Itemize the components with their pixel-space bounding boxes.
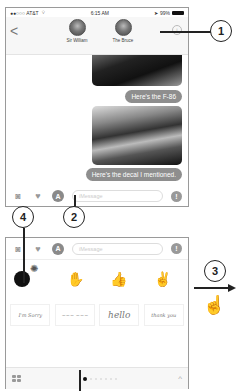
back-button[interactable]: <: [10, 23, 18, 39]
input-bar: ◙ ♥ A iMessage !: [6, 238, 188, 260]
digital-touch-icon[interactable]: ♥: [32, 244, 44, 254]
text-sticker[interactable]: hello: [99, 304, 139, 326]
app-store-button[interactable]: A: [52, 190, 64, 202]
avatar: [69, 19, 86, 36]
contact-sir-william[interactable]: Sir William: [60, 19, 94, 43]
avatar: [115, 19, 132, 36]
chevron-up-icon[interactable]: ^: [178, 374, 182, 383]
status-bar: ●●○○○ AT&T ⌔ 6:15 AM ➤ 99%: [6, 8, 188, 17]
callout-line: [79, 370, 81, 391]
callout-4: 4: [12, 206, 34, 228]
input-bar: ◙ ♥ A iMessage !: [6, 185, 188, 207]
spark-icon: ✺: [30, 263, 38, 274]
contact-the-bruce[interactable]: The Bruce: [106, 19, 140, 43]
bomb-sticker[interactable]: ✺: [14, 271, 50, 287]
peace-sticker[interactable]: ✌: [144, 271, 180, 287]
text-sticker[interactable]: I'm Sorry: [10, 304, 50, 326]
time-label: 6:15 AM: [91, 10, 109, 16]
app-grid-icon[interactable]: [12, 375, 21, 382]
sticker-row: ✺ ✋ 👍 ✌: [6, 260, 188, 298]
hand-sticker[interactable]: ✋: [57, 271, 93, 287]
callout-3: 3: [204, 260, 226, 282]
callout-2: 2: [63, 206, 85, 228]
conversation-header: < Sir William The Bruce i: [6, 17, 188, 55]
text-sticker[interactable]: thank you: [144, 304, 184, 326]
message-bubble: Here's the F-86: [125, 90, 182, 103]
camera-icon[interactable]: ◙: [12, 191, 24, 201]
callout-1: 1: [210, 20, 232, 42]
app-store-button[interactable]: A: [52, 243, 64, 255]
thumbs-sticker[interactable]: 👍: [101, 271, 137, 287]
drawer-bar: ^: [6, 367, 188, 389]
app-drawer-screen: ◙ ♥ A iMessage ! ✺ ✋ 👍 ✌ I'm Sorry ~~~ ~…: [5, 237, 189, 389]
message-photo[interactable]: [92, 55, 182, 86]
mic-icon[interactable]: !: [171, 191, 182, 202]
message-bubble: Here's the decal I mentioned.: [86, 168, 182, 181]
bomb-icon: ✺: [14, 271, 30, 287]
conversation-screen: ●●○○○ AT&T ⌔ 6:15 AM ➤ 99% < Sir William…: [5, 7, 189, 207]
text-sticker-row: I'm Sorry ~~~ ~~~ hello thank you: [6, 298, 188, 332]
arrow-head-icon: [228, 284, 236, 292]
wifi-icon: ⌔: [41, 9, 46, 16]
swipe-hand-icon: ☝: [203, 294, 225, 316]
contact-list: Sir William The Bruce: [60, 19, 140, 43]
battery-percent: 99%: [160, 10, 170, 16]
digital-touch-icon[interactable]: ♥: [32, 191, 44, 201]
battery-icon: [172, 11, 184, 15]
contact-name: The Bruce: [113, 38, 134, 43]
message-input[interactable]: iMessage: [72, 190, 163, 202]
text-sticker[interactable]: ~~~ ~~~: [55, 304, 95, 326]
callout-line: [160, 31, 212, 33]
mic-icon[interactable]: !: [171, 243, 182, 254]
info-icon[interactable]: i: [172, 25, 182, 35]
message-input[interactable]: iMessage: [72, 243, 163, 255]
swipe-arrow: [194, 287, 230, 289]
page-dots[interactable]: [83, 377, 117, 381]
carrier-label: ●●○○○ AT&T: [10, 10, 39, 16]
location-icon: ➤: [154, 10, 158, 16]
contact-name: Sir William: [66, 38, 87, 43]
message-list: Here's the F-86 Here's the decal I menti…: [6, 55, 188, 185]
callout-line: [23, 228, 25, 283]
message-photo[interactable]: [92, 106, 182, 165]
